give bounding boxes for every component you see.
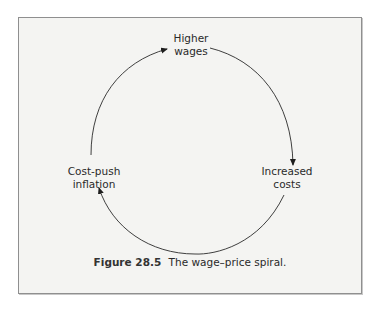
arrow-wages-to-costs bbox=[210, 48, 293, 165]
node-higher-wages-line1: Higher bbox=[168, 32, 214, 45]
node-cost-push-inflation: Cost-push inflation bbox=[64, 165, 124, 191]
node-increased-costs: Increased costs bbox=[257, 165, 317, 191]
arrow-costs-to-inflation bbox=[99, 188, 284, 254]
node-cost-push-inflation-line2: inflation bbox=[64, 178, 124, 191]
arrow-inflation-to-wages bbox=[91, 49, 167, 155]
node-higher-wages-line2: wages bbox=[168, 45, 214, 58]
node-cost-push-inflation-line1: Cost-push bbox=[64, 165, 124, 178]
figure-caption-text: The wage–price spiral. bbox=[169, 256, 287, 268]
figure-caption: Figure 28.5 The wage–price spiral. bbox=[0, 256, 380, 268]
node-increased-costs-line1: Increased bbox=[257, 165, 317, 178]
figure-number: Figure 28.5 bbox=[94, 256, 162, 268]
node-higher-wages: Higher wages bbox=[168, 32, 214, 58]
node-increased-costs-line2: costs bbox=[257, 178, 317, 191]
